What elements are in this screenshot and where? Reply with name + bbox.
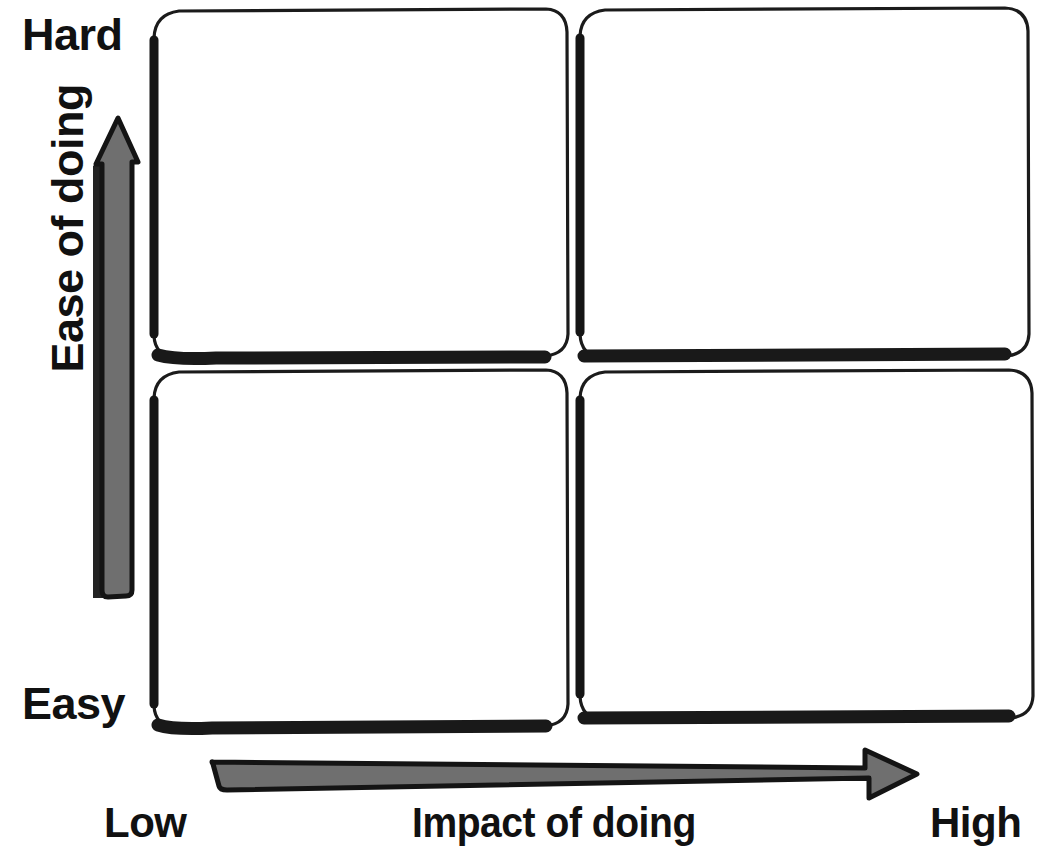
ease-axis-arrow-icon — [80, 112, 150, 600]
matrix-canvas: Hard Easy Ease of doing Low Impact of do… — [0, 0, 1050, 854]
quadrant-bottom-right[interactable] — [571, 366, 1038, 728]
axis-label-low: Low — [104, 802, 186, 844]
axis-label-high: High — [930, 802, 1021, 844]
axis-label-hard: Hard — [22, 12, 123, 57]
quadrant-top-right[interactable] — [571, 4, 1034, 366]
quadrant-top-left[interactable] — [146, 4, 574, 366]
impact-axis-arrow-icon — [205, 748, 925, 810]
axis-label-easy: Easy — [22, 681, 125, 726]
quadrant-bottom-left[interactable] — [146, 366, 574, 736]
